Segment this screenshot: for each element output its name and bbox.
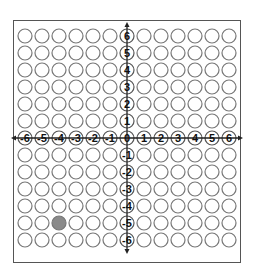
grid-circle[interactable] xyxy=(69,148,83,162)
grid-circle[interactable] xyxy=(137,80,151,94)
grid-circle[interactable] xyxy=(171,97,185,111)
grid-circle[interactable] xyxy=(18,216,32,230)
grid-circle[interactable] xyxy=(52,46,66,60)
grid-circle[interactable] xyxy=(86,80,100,94)
grid-circle[interactable] xyxy=(188,216,202,230)
grid-circle[interactable] xyxy=(137,97,151,111)
grid-circle[interactable] xyxy=(69,114,83,128)
grid-circle[interactable] xyxy=(137,114,151,128)
grid-circle[interactable] xyxy=(205,46,219,60)
grid-circle[interactable] xyxy=(103,199,117,213)
grid-circle[interactable] xyxy=(103,63,117,77)
grid-circle[interactable] xyxy=(69,97,83,111)
grid-circle[interactable] xyxy=(35,233,49,247)
grid-circle[interactable] xyxy=(171,148,185,162)
grid-circle[interactable] xyxy=(137,148,151,162)
grid-circle[interactable] xyxy=(154,46,168,60)
grid-circle[interactable] xyxy=(154,165,168,179)
grid-circle[interactable] xyxy=(35,97,49,111)
grid-circle[interactable] xyxy=(171,29,185,43)
grid-circle[interactable] xyxy=(188,46,202,60)
grid-circle[interactable] xyxy=(171,80,185,94)
grid-circle[interactable] xyxy=(222,29,236,43)
grid-circle[interactable] xyxy=(52,148,66,162)
grid-circle[interactable] xyxy=(18,114,32,128)
grid-circle[interactable] xyxy=(137,29,151,43)
grid-circle[interactable] xyxy=(154,114,168,128)
grid-circle[interactable] xyxy=(86,114,100,128)
grid-circle[interactable] xyxy=(52,29,66,43)
grid-circle[interactable] xyxy=(188,165,202,179)
grid-circle[interactable] xyxy=(205,216,219,230)
grid-circle[interactable] xyxy=(222,148,236,162)
grid-circle[interactable] xyxy=(222,165,236,179)
grid-circle[interactable] xyxy=(86,199,100,213)
grid-circle[interactable] xyxy=(18,148,32,162)
grid-circle[interactable] xyxy=(35,114,49,128)
grid-circle[interactable] xyxy=(222,233,236,247)
grid-circle[interactable] xyxy=(205,63,219,77)
grid-circle[interactable] xyxy=(205,80,219,94)
grid-circle[interactable] xyxy=(35,63,49,77)
grid-circle[interactable] xyxy=(205,97,219,111)
grid-circle[interactable] xyxy=(69,165,83,179)
grid-circle[interactable] xyxy=(52,233,66,247)
grid-circle[interactable] xyxy=(222,182,236,196)
grid-circle[interactable] xyxy=(171,233,185,247)
grid-circle[interactable] xyxy=(137,216,151,230)
grid-circle[interactable] xyxy=(154,97,168,111)
grid-circle[interactable] xyxy=(18,165,32,179)
grid-circle[interactable] xyxy=(188,80,202,94)
grid-circle[interactable] xyxy=(52,97,66,111)
grid-circle[interactable] xyxy=(86,216,100,230)
grid-circle[interactable] xyxy=(154,80,168,94)
grid-circle[interactable] xyxy=(103,216,117,230)
grid-circle[interactable] xyxy=(171,182,185,196)
grid-circle[interactable] xyxy=(222,216,236,230)
grid-circle[interactable] xyxy=(69,46,83,60)
grid-circle[interactable] xyxy=(18,233,32,247)
grid-circle[interactable] xyxy=(35,165,49,179)
grid-circle[interactable] xyxy=(86,46,100,60)
grid-circle[interactable] xyxy=(69,80,83,94)
grid-circle[interactable] xyxy=(205,148,219,162)
grid-circle[interactable] xyxy=(222,114,236,128)
grid-circle[interactable] xyxy=(35,182,49,196)
grid-circle[interactable] xyxy=(222,63,236,77)
grid-circle[interactable] xyxy=(103,165,117,179)
filled-grid-circle[interactable] xyxy=(52,216,66,230)
grid-circle[interactable] xyxy=(52,182,66,196)
grid-circle[interactable] xyxy=(154,63,168,77)
grid-circle[interactable] xyxy=(35,46,49,60)
grid-circle[interactable] xyxy=(35,29,49,43)
grid-circle[interactable] xyxy=(52,165,66,179)
grid-circle[interactable] xyxy=(171,63,185,77)
grid-circle[interactable] xyxy=(154,216,168,230)
grid-circle[interactable] xyxy=(171,199,185,213)
grid-circle[interactable] xyxy=(86,148,100,162)
grid-circle[interactable] xyxy=(52,63,66,77)
grid-circle[interactable] xyxy=(18,29,32,43)
grid-circle[interactable] xyxy=(137,199,151,213)
grid-circle[interactable] xyxy=(205,182,219,196)
grid-circle[interactable] xyxy=(188,114,202,128)
grid-circle[interactable] xyxy=(103,80,117,94)
grid-circle[interactable] xyxy=(35,148,49,162)
grid-circle[interactable] xyxy=(205,199,219,213)
grid-circle[interactable] xyxy=(69,29,83,43)
grid-circle[interactable] xyxy=(137,182,151,196)
grid-circle[interactable] xyxy=(35,199,49,213)
grid-circle[interactable] xyxy=(154,233,168,247)
grid-circle[interactable] xyxy=(171,46,185,60)
grid-circle[interactable] xyxy=(18,199,32,213)
grid-circle[interactable] xyxy=(222,97,236,111)
grid-circle[interactable] xyxy=(18,97,32,111)
grid-circle[interactable] xyxy=(86,63,100,77)
grid-circle[interactable] xyxy=(137,63,151,77)
grid-circle[interactable] xyxy=(222,199,236,213)
grid-circle[interactable] xyxy=(103,182,117,196)
grid-circle[interactable] xyxy=(86,233,100,247)
grid-circle[interactable] xyxy=(188,148,202,162)
grid-circle[interactable] xyxy=(171,216,185,230)
grid-circle[interactable] xyxy=(205,114,219,128)
